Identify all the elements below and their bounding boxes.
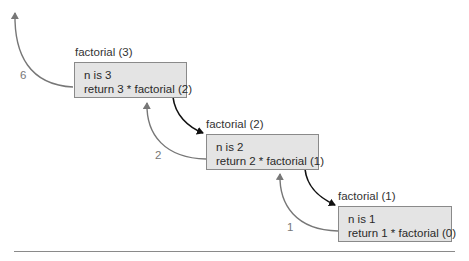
frame-label-factorial-1: factorial (1) [338, 190, 396, 202]
frame-line-n: n is 2 [216, 140, 318, 154]
stack-frame-factorial-1: n is 1 return 1 * factorial (0) [338, 206, 452, 242]
return-value-6: 6 [20, 69, 26, 81]
call-arrow-2 [173, 97, 203, 133]
frame-line-n: n is 3 [84, 68, 186, 82]
bottom-divider [14, 251, 455, 252]
frame-line-return: return 2 * factorial (1) [216, 154, 318, 168]
call-arrow-1 [305, 169, 335, 205]
return-value-1: 1 [287, 221, 293, 233]
frame-line-n: n is 1 [348, 212, 451, 226]
return-value-2: 2 [155, 149, 161, 161]
stack-frame-factorial-2: n is 2 return 2 * factorial (1) [206, 134, 319, 170]
frame-label-factorial-3: factorial (3) [75, 46, 133, 58]
frame-line-return: return 3 * factorial (2) [84, 82, 186, 96]
stack-frame-factorial-3: n is 3 return 3 * factorial (2) [74, 62, 187, 98]
frame-label-factorial-2: factorial (2) [206, 118, 264, 130]
frame-line-return: return 1 * factorial (0) [348, 226, 451, 240]
